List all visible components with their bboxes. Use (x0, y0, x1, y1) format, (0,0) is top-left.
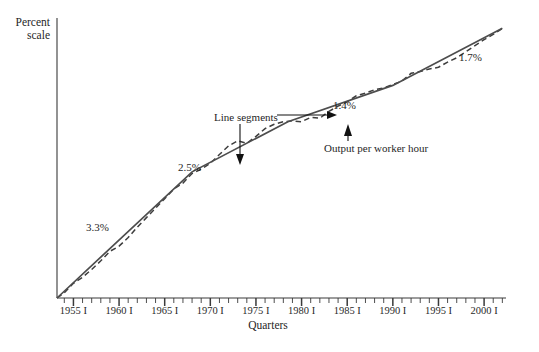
growth-rate-label-2: 2.5% (178, 161, 201, 174)
series-output-per-worker-hour (57, 28, 502, 298)
y-axis-title: Percentscale (0, 16, 50, 42)
annotation-label-line-segments: Line segments (214, 111, 278, 124)
growth-rate-label-1: 3.3% (86, 221, 109, 234)
growth-rate-label-3: 1.4% (333, 99, 356, 112)
growth-rate-label-4: 1.7% (459, 51, 482, 64)
series-line-segments (57, 28, 502, 298)
annotation-arrow-line-segments-horizontal (277, 111, 337, 119)
x-axis-title: Quarters (218, 319, 318, 332)
y-axis-title-line2: scale (27, 29, 50, 41)
annotation-label-output-per-worker-hour: Output per worker hour (324, 142, 428, 155)
y-axis-title-line1: Percent (16, 16, 50, 28)
x-axis-tick-label: 2000 I (454, 305, 514, 316)
annotation-arrow-output-per-worker-hour (344, 124, 352, 141)
